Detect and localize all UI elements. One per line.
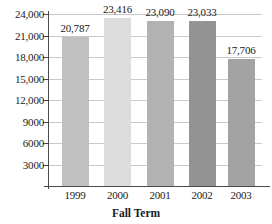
y-axis-tick-label: 24,000: [0, 9, 44, 20]
x-axis-tick-label: 2001: [140, 190, 180, 201]
y-axis-tick-label: 3000: [0, 160, 44, 171]
bar-value-label: 23,090: [138, 7, 182, 18]
bar-value-label: 20,787: [53, 23, 97, 34]
y-axis-line: [48, 11, 49, 189]
bar-chart: 30006000900012,00015,00018,00021,00024,0…: [0, 0, 272, 224]
y-axis-tick-label: 21,000: [0, 31, 44, 42]
y-axis-tick-label: 9000: [0, 117, 44, 128]
y-axis-tick-label: 6000: [0, 138, 44, 149]
x-axis-tick-label: 2002: [182, 190, 222, 201]
bar: [189, 21, 216, 186]
x-axis-tick-label: 1999: [55, 190, 95, 201]
x-axis-line: [44, 186, 270, 187]
bar-value-label: 23,033: [180, 7, 224, 18]
bar-value-label: 17,706: [219, 45, 263, 56]
bar: [104, 18, 131, 186]
bar: [62, 37, 89, 186]
y-axis-tick-label: 15,000: [0, 74, 44, 85]
x-axis-tick-label: 2003: [221, 190, 261, 201]
y-axis-tick-label: 12,000: [0, 95, 44, 106]
x-axis-title: Fall Term: [0, 207, 272, 219]
bar-value-label: 23,416: [96, 4, 140, 15]
bars-group: 20,78723,41623,09023,03317,706: [48, 14, 262, 186]
bar: [228, 59, 255, 186]
x-axis-tick-label: 2000: [98, 190, 138, 201]
bar: [147, 21, 174, 186]
y-axis-tick-label: 18,000: [0, 52, 44, 63]
